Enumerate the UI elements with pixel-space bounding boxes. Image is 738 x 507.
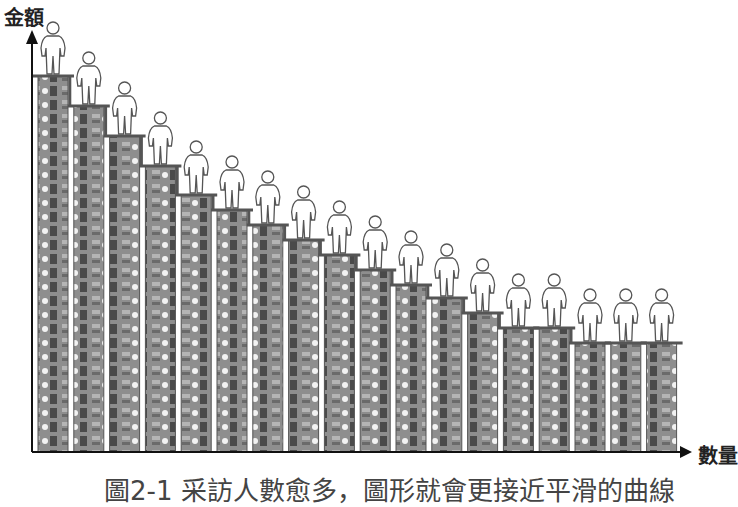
person-icon — [41, 22, 65, 74]
bar — [324, 255, 354, 452]
bar — [432, 298, 462, 452]
person-icon — [256, 171, 280, 223]
person-icon — [220, 156, 244, 208]
person-icon — [148, 112, 172, 164]
bar — [575, 343, 605, 452]
person-icon — [614, 289, 638, 341]
bar — [289, 240, 319, 452]
person-icon — [471, 259, 495, 311]
bar — [110, 136, 140, 452]
bar — [468, 313, 498, 452]
bar — [38, 76, 68, 452]
person-icon — [77, 52, 101, 104]
bar — [145, 166, 175, 452]
bar — [181, 195, 211, 452]
bar — [503, 328, 533, 452]
bar — [539, 328, 569, 452]
person-icon — [435, 244, 459, 296]
person-icon — [399, 231, 423, 283]
bar — [396, 285, 426, 452]
person-icon — [184, 141, 208, 193]
bar — [647, 343, 677, 452]
person-icon — [542, 274, 566, 326]
x-axis-arrow-icon — [680, 446, 692, 458]
person-icon — [363, 216, 387, 268]
person-icon — [292, 186, 316, 238]
y-axis-arrow-icon — [26, 30, 38, 44]
person-icon — [327, 201, 351, 253]
person-icon — [650, 289, 674, 341]
bar — [74, 106, 104, 452]
bar — [611, 343, 641, 452]
bar — [217, 210, 247, 452]
person-icon — [113, 82, 137, 134]
person-icon — [578, 289, 602, 341]
person-icon — [506, 274, 530, 326]
bar — [360, 270, 390, 452]
bar — [253, 225, 283, 452]
